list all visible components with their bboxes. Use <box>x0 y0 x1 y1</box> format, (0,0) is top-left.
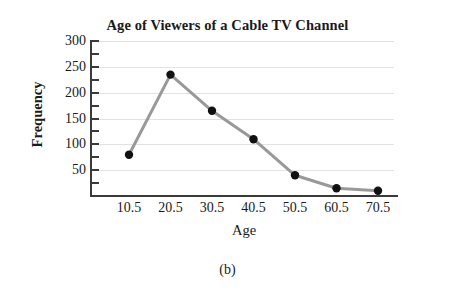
data-point-marker <box>166 70 174 78</box>
data-point-marker <box>291 171 299 179</box>
data-point-marker <box>125 151 133 159</box>
figure-caption: (b) <box>0 262 455 278</box>
figure-panel: Age of Viewers of a Cable TV Channel Fre… <box>0 0 455 304</box>
data-point-marker <box>208 107 216 115</box>
x-axis-title: Age <box>90 222 398 239</box>
data-point-marker <box>332 184 340 192</box>
data-point-marker <box>249 135 257 143</box>
data-series-layer <box>0 0 455 304</box>
series-line <box>129 75 378 191</box>
data-point-marker <box>374 187 382 195</box>
